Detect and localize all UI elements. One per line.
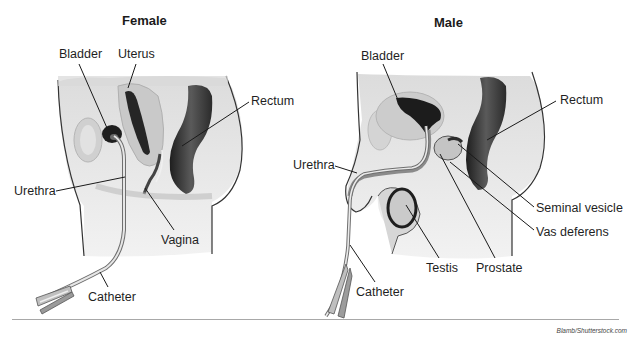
male-label-catheter: Catheter: [356, 286, 404, 299]
female-catheter-leader-line: [100, 272, 108, 287]
male-label-seminal-vesicle: Seminal vesicle: [536, 202, 623, 215]
female-catheter-funnel: [36, 286, 74, 314]
male-testis: [388, 189, 416, 227]
male-catheter-funnel: [328, 264, 352, 318]
bottom-divider: [12, 319, 619, 320]
female-label-bladder: Bladder: [59, 48, 102, 61]
male-body-section: [347, 74, 544, 259]
anatomy-figure: Female Male Bladder Uterus Rectum Urethr…: [0, 0, 631, 338]
male-label-vas-deferens: Vas deferens: [536, 226, 609, 239]
female-label-uterus: Uterus: [118, 48, 155, 61]
male-label-testis: Testis: [426, 262, 458, 275]
image-credit: Blamb/Shutterstock.com: [557, 327, 627, 334]
female-anatomy: [36, 76, 243, 314]
male-label-rectum: Rectum: [560, 94, 603, 107]
male-label-urethra: Urethra: [293, 159, 335, 172]
female-label-rectum: Rectum: [251, 95, 294, 108]
male-catheter-leader-line: [350, 245, 375, 282]
male-panel-title: Male: [434, 15, 463, 30]
female-label-urethra: Urethra: [14, 185, 56, 198]
male-label-prostate: Prostate: [476, 262, 523, 275]
male-anatomy: [326, 72, 545, 318]
female-panel-title: Female: [122, 13, 167, 28]
female-label-vagina: Vagina: [161, 234, 199, 247]
female-label-catheter: Catheter: [88, 291, 136, 304]
male-label-bladder: Bladder: [361, 50, 404, 63]
